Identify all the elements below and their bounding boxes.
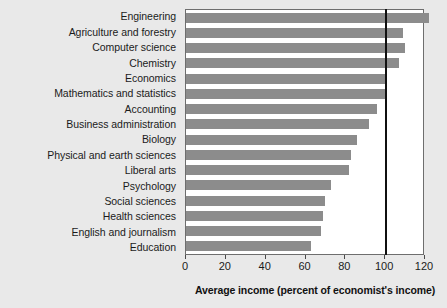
x-tick-label: 100 [375, 260, 393, 272]
bar-row [186, 10, 423, 25]
category-label: Engineering [0, 9, 180, 24]
x-axis-title: Average income (percent of economist's i… [185, 284, 445, 296]
category-label: Economics [0, 71, 180, 86]
x-tick-mark [344, 255, 345, 259]
category-label: Biology [0, 132, 180, 147]
bar-row [186, 147, 423, 162]
category-axis-labels: EngineeringAgriculture and forestryCompu… [0, 9, 180, 255]
bar-row [186, 178, 423, 193]
x-tick-label: 120 [415, 260, 433, 272]
category-label: Accounting [0, 101, 180, 116]
bar [186, 43, 405, 53]
category-label: Health sciences [0, 209, 180, 224]
bar [186, 211, 323, 221]
bar-row [186, 132, 423, 147]
bar [186, 104, 377, 114]
bars-layer [186, 10, 423, 254]
bar [186, 58, 399, 68]
bar [186, 226, 321, 236]
category-label: Chemistry [0, 55, 180, 70]
bar [186, 180, 331, 190]
bar [186, 241, 311, 251]
x-tick-mark [424, 255, 425, 259]
x-tick-mark [384, 255, 385, 259]
bar [186, 150, 351, 160]
x-tick-label: 80 [338, 260, 350, 272]
category-label: Education [0, 240, 180, 255]
category-label: Liberal arts [0, 163, 180, 178]
category-label: English and journalism [0, 224, 180, 239]
bar-row [186, 86, 423, 101]
bar [186, 13, 429, 23]
bar [186, 165, 349, 175]
x-tick-mark [265, 255, 266, 259]
category-label: Business administration [0, 117, 180, 132]
category-label: Physical and earth sciences [0, 147, 180, 162]
bar-row [186, 117, 423, 132]
x-tick-mark [185, 255, 186, 259]
bar [186, 28, 403, 38]
bar-row [186, 56, 423, 71]
reference-line-100 [385, 9, 387, 255]
category-label: Mathematics and statistics [0, 86, 180, 101]
bar-row [186, 208, 423, 223]
plot-area [185, 9, 424, 255]
bar-row [186, 71, 423, 86]
bar-row [186, 239, 423, 254]
bar-row [186, 25, 423, 40]
x-axis: 020406080100120 [184, 255, 425, 256]
bar-chart: EngineeringAgriculture and forestryCompu… [0, 0, 447, 308]
bar [186, 196, 325, 206]
bar [186, 74, 385, 84]
category-label: Psychology [0, 178, 180, 193]
category-label: Social sciences [0, 194, 180, 209]
bar-row [186, 224, 423, 239]
bar-row [186, 41, 423, 56]
bar-row [186, 102, 423, 117]
x-tick-label: 20 [219, 260, 231, 272]
x-tick-mark [225, 255, 226, 259]
bar-row [186, 193, 423, 208]
x-tick-label: 0 [182, 260, 188, 272]
bar [186, 135, 357, 145]
x-tick-label: 40 [259, 260, 271, 272]
x-tick-label: 60 [298, 260, 310, 272]
bar-row [186, 163, 423, 178]
bar [186, 119, 369, 129]
category-label: Computer science [0, 40, 180, 55]
bar [186, 89, 385, 99]
x-tick-mark [305, 255, 306, 259]
category-label: Agriculture and forestry [0, 24, 180, 39]
